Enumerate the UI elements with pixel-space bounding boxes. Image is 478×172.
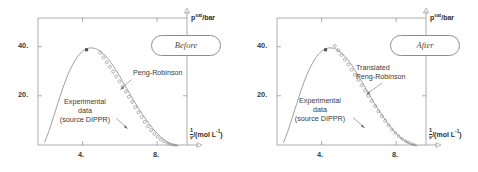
chart-panel-after: 40. 20. 4. 8. psat/bar 1 v /(mol L-1) Af… bbox=[239, 0, 478, 172]
y-axis-title-before: psat/bar bbox=[191, 13, 215, 21]
panel-badge-after: After bbox=[390, 35, 460, 56]
annotation-arrow-data-before bbox=[117, 119, 129, 129]
x-ticks-before bbox=[83, 18, 158, 145]
y-axis-arrow-after bbox=[423, 8, 428, 18]
data-series-experimental-after bbox=[333, 45, 416, 146]
annotation-label-model-line1-before: Peng-Robinson bbox=[133, 69, 183, 78]
x-axis-arrow-after bbox=[426, 143, 441, 148]
y-tick-label-40-before: 40. bbox=[18, 41, 28, 50]
y-axis-arrow-before bbox=[184, 8, 189, 18]
x-axis-title-unit-close-after: ) bbox=[459, 131, 461, 138]
annotation-label-data-before: Experimental data (source DIPPR) bbox=[52, 98, 118, 124]
chart-panel-before: 40. 20. 4. 8. psat/bar 1 v /(mol L-1) Be… bbox=[0, 0, 239, 172]
x-tick-label-8-after: 8. bbox=[392, 150, 398, 159]
annotation-arrow-model-before bbox=[120, 80, 132, 90]
critical-point-marker-before bbox=[85, 48, 88, 51]
y-axis-title-after: psat/bar bbox=[430, 13, 454, 21]
x-tick-label-8-before: 8. bbox=[153, 150, 159, 159]
figure-root: 40. 20. 4. 8. psat/bar 1 v /(mol L-1) Be… bbox=[0, 0, 478, 172]
plot-canvas-after bbox=[239, 0, 478, 172]
annotation-arrow-data-after bbox=[353, 118, 365, 129]
annotation-label-data-after: Experimental data (source DIPPR) bbox=[287, 97, 353, 123]
x-axis-title-after: 1 v /(mol L-1) bbox=[429, 128, 462, 140]
x-axis-arrow-before bbox=[187, 143, 202, 148]
x-axis-title-unit-close: ) bbox=[220, 131, 222, 138]
annotation-label-data-line3-after: (source DIPPR) bbox=[287, 115, 353, 124]
x-tick-label-4-before: 4. bbox=[78, 150, 84, 159]
y-tick-label-20-before: 20. bbox=[18, 90, 28, 99]
annotation-label-data-line3-before: (source DIPPR) bbox=[52, 116, 118, 125]
panel-badge-before: Before bbox=[151, 35, 221, 56]
plot-canvas-before bbox=[0, 0, 239, 172]
x-axis-title-before: 1 v /(mol L-1) bbox=[190, 128, 223, 140]
y-tick-label-20-after: 20. bbox=[257, 90, 267, 99]
y-axis-title-unit-after: /bar bbox=[441, 14, 454, 21]
annotation-label-model-after: Translated Peng-Robinson bbox=[356, 64, 406, 82]
y-axis-title-unit: /bar bbox=[202, 14, 215, 21]
critical-point-marker-after bbox=[324, 48, 327, 51]
annotation-label-model-before: Peng-Robinson bbox=[133, 69, 183, 78]
x-axis-title-unit-after: /(mol L bbox=[432, 131, 455, 138]
annotation-label-model-line2-after: Peng-Robinson bbox=[356, 73, 406, 82]
y-tick-label-40-after: 40. bbox=[257, 41, 267, 50]
x-axis-title-unit: /(mol L bbox=[193, 131, 216, 138]
x-tick-label-4-after: 4. bbox=[317, 150, 323, 159]
annotation-arrow-model-after bbox=[366, 83, 382, 95]
